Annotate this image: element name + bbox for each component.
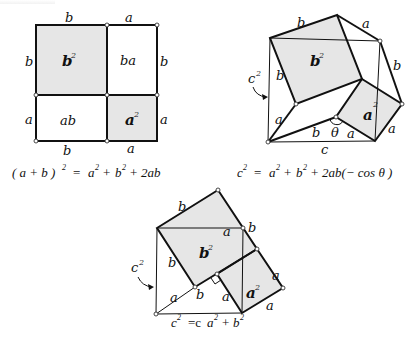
formula-pythagorean: c 2 =c a 2 + b 2 <box>171 313 244 330</box>
formula-b: b <box>233 315 240 330</box>
label-right-a: a <box>272 268 280 283</box>
label-bottom-a: a <box>266 298 274 313</box>
formula-a: a <box>207 315 214 330</box>
formula-lhs-exp: 2 <box>177 313 181 322</box>
label-right-b: b <box>393 58 401 73</box>
arrow-head-icon <box>262 94 268 100</box>
label-bottom-b: b <box>63 143 71 158</box>
arrow-head-icon <box>148 284 154 290</box>
label-lower-a2: a <box>222 289 230 304</box>
formula-b-exp: 2 <box>303 163 307 172</box>
figure-law-of-cosines: c 2 b a b b b 2 a 2 a b θ a a c c 2 = a … <box>237 15 404 180</box>
label-right-b: b <box>160 54 168 69</box>
formula-plus-2: + <box>311 165 318 180</box>
formula-plus-1: + <box>222 315 229 330</box>
formula-lhs-exp: 2 <box>243 163 247 172</box>
label-region-ab: ab <box>60 113 76 128</box>
label-region-ba: ba <box>120 53 136 68</box>
label-region-b2-exp: 2 <box>207 243 213 252</box>
formula-a-exp: 2 <box>276 163 280 172</box>
figure-pythagorean: c 2 b a b b b 2 a 2 a b a a a c 2 =c a 2… <box>131 188 285 330</box>
formula-eq: =c <box>188 315 201 330</box>
formula-tail: 2ab(− cos θ ) <box>322 165 392 180</box>
label-corner-b: b <box>248 220 256 235</box>
label-lower-a: a <box>275 112 283 127</box>
formula-b: b <box>115 165 122 180</box>
figure-square-expansion: b a b a b a b a b 2 ba ab a 2 ( a + b ) … <box>12 10 168 180</box>
label-lower-b: b <box>312 125 320 140</box>
label-bottom-c: c <box>321 142 329 157</box>
formula-plus-1: + <box>284 165 291 180</box>
label-bottom-a: a <box>127 141 135 156</box>
label-c2: c <box>131 260 139 275</box>
label-lower-b: b <box>196 287 204 302</box>
label-top-b: b <box>65 10 73 25</box>
label-top-b: b <box>178 199 186 214</box>
label-region-a2-exp: 2 <box>254 283 260 292</box>
diagram-canvas: b a b a b a b a b 2 ba ab a 2 ( a + b ) … <box>0 0 410 338</box>
formula-a: a <box>269 165 276 180</box>
label-region-a2-exp: 2 <box>133 110 139 119</box>
formula-a: a <box>88 165 95 180</box>
label-left-b: b <box>276 68 284 83</box>
formula-square-expansion: ( a + b ) 2 = a 2 + b 2 + 2ab <box>12 163 161 180</box>
label-top-a: a <box>223 224 231 239</box>
label-c2-exp: 2 <box>138 258 144 267</box>
label-lower-a2: a <box>347 126 355 141</box>
formula-eq: = <box>73 165 80 180</box>
label-region-b2-exp: 2 <box>70 51 76 60</box>
formula-plus-2: + <box>130 165 137 180</box>
label-region-a2-exp: 2 <box>372 100 378 109</box>
label-c2-exp: 2 <box>255 69 261 78</box>
formula-lhs: ( a + b ) <box>12 165 55 180</box>
label-left-b: b <box>168 255 176 270</box>
label-right-a: a <box>388 121 396 136</box>
label-right-a: a <box>160 112 168 127</box>
formula-b-exp: 2 <box>240 313 244 322</box>
formula-b-exp: 2 <box>122 163 126 172</box>
label-c2: c <box>248 71 256 86</box>
label-region-b2-exp: 2 <box>318 51 324 60</box>
label-region-a2: a <box>363 106 373 124</box>
formula-lhs-exp: 2 <box>62 163 66 172</box>
formula-2ab: 2ab <box>141 165 161 180</box>
formula-law-of-cosines: c 2 = a 2 + b 2 + 2ab(− cos θ ) <box>237 163 392 180</box>
label-left-a: a <box>25 112 33 127</box>
formula-eq: = <box>254 165 261 180</box>
label-left-b: b <box>25 54 33 69</box>
formula-a-exp: 2 <box>214 313 218 322</box>
label-top-b: b <box>297 15 305 30</box>
label-top-a: a <box>362 16 370 31</box>
label-lower-a: a <box>170 290 178 305</box>
formula-plus-1: + <box>103 165 110 180</box>
formula-a-exp: 2 <box>95 163 99 172</box>
formula-b: b <box>296 165 303 180</box>
label-theta: θ <box>331 125 339 140</box>
label-top-a: a <box>125 10 133 25</box>
